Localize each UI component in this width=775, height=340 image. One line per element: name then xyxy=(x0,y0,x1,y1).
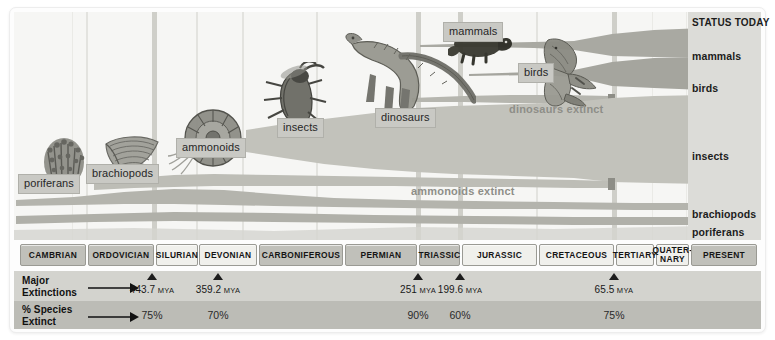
period-cambrian[interactable]: CAMBRIAN xyxy=(20,244,86,266)
callout-insects: insects xyxy=(277,118,324,138)
period-ordovician[interactable]: ORDOVICIAN xyxy=(88,244,154,266)
label-ammonoids-extinct: ammonoids extinct xyxy=(411,185,515,197)
status-today-title: STATUS TODAY xyxy=(692,17,770,28)
period-carboniferous[interactable]: CARBONIFEROUS xyxy=(259,244,343,266)
extinction-mya-359.2: 359.2 MYA xyxy=(196,284,241,295)
status-item-birds: birds xyxy=(692,82,718,94)
major-extinctions-label: Major Extinctions xyxy=(22,275,77,298)
callout-dinosaurs: dinosaurs xyxy=(375,108,436,128)
status-item-insects: insects xyxy=(692,150,729,162)
percent-species-extinct-row: % Species Extinct 75%70%90%60%75% xyxy=(14,301,761,329)
status-item-poriferans: poriferans xyxy=(692,226,744,238)
percent-extinct-443.7: 75% xyxy=(141,309,162,321)
mya-value: 359.2 xyxy=(196,284,222,295)
extinction-mya-65.5: 65.5 MYA xyxy=(595,284,634,295)
mya-unit: MYA xyxy=(417,286,436,295)
callout-ammonoids: ammonoids xyxy=(176,138,246,158)
callout-mammals: mammals xyxy=(443,22,503,42)
mya-unit: MYA xyxy=(463,286,482,295)
extinction-marker-359.2 xyxy=(213,273,223,280)
callout-birds: birds xyxy=(518,63,554,83)
extinction-marker-199.6 xyxy=(455,273,465,280)
percent-extinct-65.5: 75% xyxy=(603,309,624,321)
period-jurassic[interactable]: JURASSIC xyxy=(462,244,537,266)
extinction-mya-443.7: 443.7 MYA xyxy=(130,284,175,295)
period-triassic[interactable]: TRIASSIC xyxy=(419,244,460,266)
period-devonian[interactable]: DEVONIAN xyxy=(199,244,257,266)
mya-value: 443.7 xyxy=(130,284,156,295)
extinction-marker-443.7 xyxy=(147,273,157,280)
period-tertiary[interactable]: TERTIARY xyxy=(616,244,654,266)
callout-brachiopods: brachiopods xyxy=(86,164,159,184)
percent-extinct-251: 90% xyxy=(407,309,428,321)
extinction-marker-251 xyxy=(413,273,423,280)
status-item-brachiopods: brachiopods xyxy=(692,208,756,220)
extinction-mya-199.6: 199.6 MYA xyxy=(438,284,483,295)
geologic-timeline-figure: poriferansbrachiopodsammonoidsinsectsdin… xyxy=(0,0,775,340)
mya-unit: MYA xyxy=(155,286,174,295)
percent-extinct-359.2: 70% xyxy=(207,309,228,321)
percent-species-arrow-icon xyxy=(88,312,140,322)
label-dinosaurs-extinct: dinosaurs extinct xyxy=(509,103,603,115)
extinction-marker-65.5 xyxy=(609,273,619,280)
period-timeline-row: CAMBRIANORDOVICIANSILURIANDEVONIANCARBON… xyxy=(14,243,761,269)
mya-unit: MYA xyxy=(221,286,240,295)
percent-extinct-199.6: 60% xyxy=(449,309,470,321)
period-quaternary[interactable]: QUATER- NARY xyxy=(656,244,689,266)
mya-value: 251 xyxy=(400,284,417,295)
mya-value: 199.6 xyxy=(438,284,464,295)
status-item-mammals: mammals xyxy=(692,50,741,62)
major-extinctions-row: Major Extinctions 443.7 MYA359.2 MYA251 … xyxy=(14,271,761,301)
mya-value: 65.5 xyxy=(595,284,615,295)
percent-species-extinct-label: % Species Extinct xyxy=(22,304,72,327)
period-cretaceous[interactable]: CRETACEOUS xyxy=(539,244,614,266)
callout-poriferans: poriferans xyxy=(18,174,80,194)
period-silurian[interactable]: SILURIAN xyxy=(156,244,198,266)
period-permian[interactable]: PERMIAN xyxy=(345,244,417,266)
status-today-panel xyxy=(688,12,761,240)
period-present[interactable]: PRESENT xyxy=(691,244,757,266)
extinction-mya-251: 251 MYA xyxy=(400,284,436,295)
mya-unit: MYA xyxy=(614,286,633,295)
